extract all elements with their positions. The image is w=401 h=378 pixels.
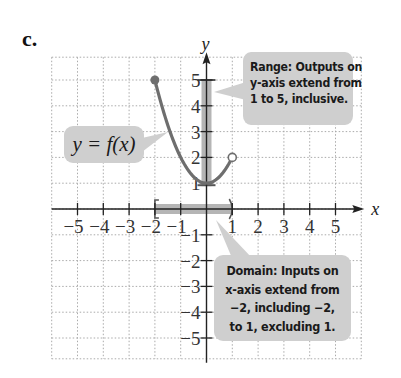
y-tick-label: −5 bbox=[180, 328, 200, 349]
domain-line: x-axis extend from bbox=[225, 281, 339, 300]
range-line: 1 to 5, inclusive. bbox=[250, 91, 348, 107]
function-label: y = f(x) bbox=[72, 132, 135, 156]
domain-callout: Domain: Inputs on x-axis extend from −2,… bbox=[214, 255, 351, 341]
y-tick-label: 5 bbox=[191, 70, 201, 91]
x-tick-label: −2 bbox=[141, 216, 161, 237]
y-tick-label: −2 bbox=[180, 251, 200, 272]
x-axis-label: x bbox=[370, 199, 379, 219]
y-tick-label: −4 bbox=[180, 302, 201, 323]
y-tick-label: 2 bbox=[191, 147, 201, 168]
x-tick-label: 4 bbox=[305, 216, 315, 237]
x-tick-label: 2 bbox=[253, 216, 263, 237]
range-callout: Range: Outputs on y-axis extend from 1 t… bbox=[243, 52, 353, 125]
function-label-callout: y = f(x) bbox=[64, 126, 144, 163]
part-label: c. bbox=[22, 26, 37, 52]
y-tick-label: −3 bbox=[180, 276, 200, 297]
domain-line: Domain: Inputs on bbox=[225, 262, 339, 281]
open-endpoint bbox=[228, 153, 236, 161]
x-tick-label: 5 bbox=[331, 216, 341, 237]
range-callout-pointer bbox=[214, 82, 246, 100]
range-line: Range: Outputs on bbox=[250, 59, 348, 75]
y-tick-label: 4 bbox=[191, 96, 201, 117]
x-tick-label: −3 bbox=[115, 216, 135, 237]
y-axis-label: y bbox=[200, 34, 210, 54]
x-tick-label: −5 bbox=[63, 216, 83, 237]
closed-endpoint bbox=[150, 76, 159, 85]
range-line: y-axis extend from bbox=[250, 75, 348, 91]
y-tick-label: 3 bbox=[191, 122, 201, 143]
x-tick-label: 3 bbox=[279, 216, 289, 237]
x-tick-label: −4 bbox=[89, 216, 110, 237]
y-tick-label: −1 bbox=[180, 225, 200, 246]
domain-line: −2, including −2, bbox=[225, 299, 339, 318]
domain-line: to 1, excluding 1. bbox=[225, 318, 339, 337]
